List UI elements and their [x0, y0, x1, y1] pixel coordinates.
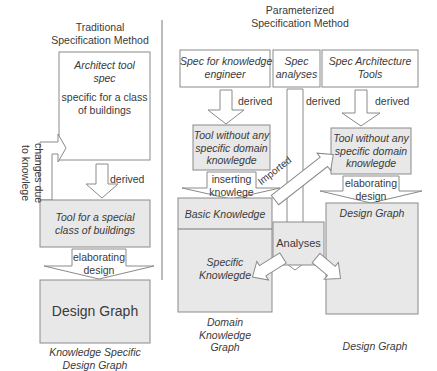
- specific-line1: Specific: [178, 256, 272, 269]
- spec-arch-line1: Spec Architecture: [322, 55, 418, 68]
- tool-without-knowledge-left-text: Tool without any specific domain knowleg…: [193, 129, 270, 167]
- specific-knowledge-label: Specific Knowlegde: [178, 256, 272, 281]
- derived-label-analyses: derived: [306, 95, 340, 108]
- elaborating-label-left: elaborating design: [72, 251, 126, 276]
- parameterized-heading-line1: Parameterized: [235, 4, 365, 17]
- elaborating-left-line1: elaborating: [72, 251, 126, 264]
- parameterized-heading-line2: Specification Method: [235, 17, 365, 30]
- derived-label-knowledge: derived: [238, 95, 272, 108]
- design-graph-label-right: Design Graph: [326, 207, 418, 220]
- spec-ke-line2: engineer: [180, 68, 270, 81]
- traditional-heading: Traditional Specification Method: [40, 21, 160, 46]
- spec-analyses-line2: analyses: [273, 68, 320, 81]
- tool-without-knowledge-right-text: Tool without any specific domain knowleg…: [331, 132, 411, 170]
- architect-body-line1: specific for a class: [59, 91, 150, 104]
- tool-left-line1: Tool without any: [193, 129, 270, 142]
- design-graph-label-left: Design Graph: [40, 303, 150, 319]
- elaborating-label-right: elaborating design: [343, 177, 399, 202]
- elaborating-right-line1: elaborating: [343, 177, 399, 190]
- design-graph-box-right: [326, 203, 418, 314]
- design-graph-caption: Design Graph: [330, 340, 420, 353]
- tool-special-line2: class of buildings: [40, 224, 150, 237]
- tool-right-line1: Tool without any: [331, 132, 411, 145]
- tool-left-line3: knowlegde: [193, 154, 270, 167]
- spec-analyses-line1: Spec: [273, 55, 320, 68]
- spec-analyses-text: Spec analyses: [273, 55, 320, 80]
- architect-title-line2: spec: [59, 72, 150, 85]
- changes-label-line2: to knowlege: [20, 141, 33, 205]
- spec-knowledge-engineer-text: Spec for knowledge engineer: [180, 55, 270, 80]
- tool-right-line3: knowlegde: [331, 157, 411, 170]
- architect-tool-spec-text: Architect tool spec specific for a class…: [59, 59, 150, 116]
- changes-due-label: changes due to knowlege: [19, 141, 45, 205]
- domain-caption-line3: Graph: [180, 341, 270, 354]
- tool-right-line2: specific domain: [331, 145, 411, 158]
- spec-arch-line2: Tools: [322, 68, 418, 81]
- architect-title-line1: Architect tool: [59, 59, 150, 72]
- knowledge-specific-caption: Knowledge Specific Design Graph: [30, 346, 160, 371]
- spec-ke-line1: Spec for knowledge: [180, 55, 270, 68]
- domain-knowledge-caption: Domain Knowledge Graph: [180, 316, 270, 354]
- changes-label-line1: changes due: [33, 141, 46, 205]
- traditional-heading-line1: Traditional: [40, 21, 160, 34]
- spec-architecture-text: Spec Architecture Tools: [322, 55, 418, 80]
- domain-caption-line2: Knowledge: [180, 329, 270, 342]
- derived-label-left: derived: [110, 173, 144, 186]
- imported-arrow: [268, 146, 340, 209]
- basic-knowledge-label: Basic Knowledge: [178, 208, 272, 221]
- caption-left-line2: Design Graph: [30, 359, 160, 371]
- domain-caption-line1: Domain: [180, 316, 270, 329]
- traditional-heading-line2: Specification Method: [40, 34, 160, 47]
- caption-left-line1: Knowledge Specific: [30, 346, 160, 359]
- architect-body-line2: of buildings: [59, 104, 150, 117]
- derived-label-architecture: derived: [375, 95, 409, 108]
- elaborating-right-line2: design: [343, 190, 399, 203]
- tool-special-line1: Tool for a special: [40, 211, 150, 224]
- specific-line2: Knowlegde: [178, 269, 272, 282]
- elaborating-left-line2: design: [72, 264, 126, 277]
- tool-special-class-text: Tool for a special class of buildings: [40, 211, 150, 236]
- tool-left-line2: specific domain: [193, 142, 270, 155]
- analyses-label: Analyses: [273, 237, 324, 250]
- parameterized-heading: Parameterized Specification Method: [235, 4, 365, 29]
